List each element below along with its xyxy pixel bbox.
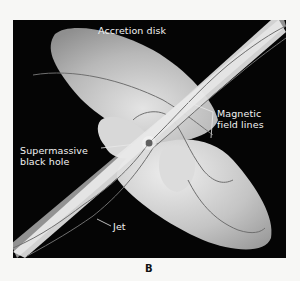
label-magnetic-line2: field lines [217,119,264,130]
label-supermassive-black-hole: Supermassive black hole [20,145,88,167]
accretion-disk-diagram: Accretion disk Magnetic field lines Supe… [13,20,286,258]
label-magnetic-field-lines: Magnetic field lines [217,108,264,130]
label-jet: Jet [113,221,126,232]
label-accretion-disk: Accretion disk [98,25,166,36]
diagram-illustration [13,20,286,258]
label-black-hole-line2: black hole [20,156,88,167]
label-magnetic-line1: Magnetic [217,108,264,119]
panel-letter: B [145,263,153,274]
leader-line-jet [97,219,111,226]
label-black-hole-line1: Supermassive [20,145,88,156]
